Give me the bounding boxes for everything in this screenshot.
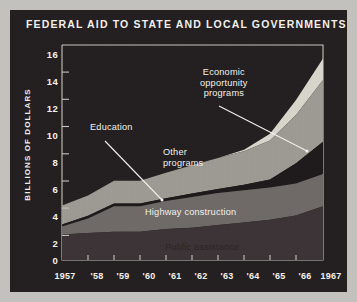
annotation-highway-construction: Highway construction bbox=[145, 207, 236, 218]
annotation-eop-line-3: programs bbox=[200, 88, 248, 99]
annotation-public-assistance: Public assistance bbox=[165, 242, 239, 253]
chart-panel: FEDERAL AID TO STATE AND LOCAL GOVERNMEN… bbox=[10, 10, 347, 292]
annotation-economic-opportunity-programs: Economic opportunity programs bbox=[200, 67, 248, 99]
annotation-other-programs: Other programs bbox=[163, 147, 203, 168]
economic-opportunity-leader-dot bbox=[306, 150, 309, 153]
annotation-other-line-2: programs bbox=[163, 158, 203, 169]
screenshot-root: FEDERAL AID TO STATE AND LOCAL GOVERNMEN… bbox=[0, 0, 357, 302]
annotation-eop-line-2: opportunity bbox=[200, 78, 248, 89]
annotation-education-line-1: Education bbox=[90, 122, 133, 133]
education-leader-dot bbox=[161, 199, 164, 202]
annotation-highway-line-1: Highway construction bbox=[145, 207, 236, 218]
annotation-education: Education bbox=[90, 122, 133, 133]
annotation-other-line-1: Other bbox=[163, 147, 203, 158]
annotation-public-assistance-line-1: Public assistance bbox=[165, 242, 239, 253]
annotation-eop-line-1: Economic bbox=[200, 67, 248, 78]
